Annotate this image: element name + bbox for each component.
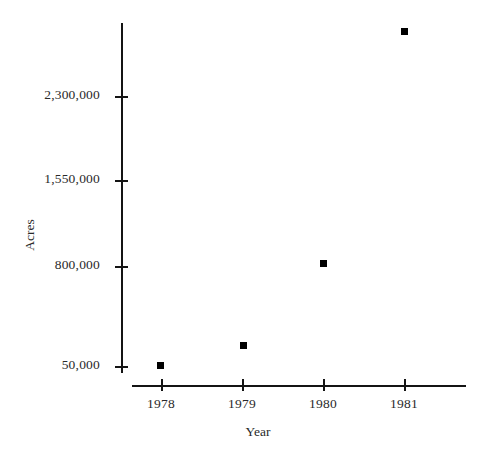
scatter-plot-figure: 2,300,0001,550,000800,00050,000 19781979… — [0, 0, 484, 458]
y-axis-tick-label: 800,000 — [0, 257, 122, 273]
x-axis-tick-mark — [404, 379, 406, 391]
x-axis-line — [132, 385, 466, 387]
x-axis-tick-mark — [323, 379, 325, 391]
y-axis-line — [121, 23, 123, 373]
x-axis-tick-mark — [242, 379, 244, 391]
y-axis-tick-label: 50,000 — [0, 357, 122, 373]
data-point-marker — [240, 342, 247, 349]
x-axis-tick-label: 1978 — [121, 396, 201, 412]
y-axis-title: Acres — [22, 219, 38, 250]
y-axis-tick-label: 2,300,000 — [0, 87, 122, 103]
data-point-marker — [401, 28, 408, 35]
data-point-marker — [157, 362, 164, 369]
x-axis-tick-mark — [161, 379, 163, 391]
x-axis-tick-label: 1981 — [364, 396, 444, 412]
y-axis-tick-label: 1,550,000 — [0, 171, 122, 187]
data-point-marker — [320, 260, 327, 267]
x-axis-title: Year — [246, 424, 271, 440]
x-axis-tick-label: 1980 — [283, 396, 363, 412]
x-axis-tick-label: 1979 — [202, 396, 282, 412]
